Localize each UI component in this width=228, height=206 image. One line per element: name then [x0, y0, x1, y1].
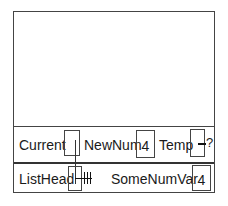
label-listhead: ListHead [19, 171, 74, 187]
box-current [64, 130, 80, 156]
nil-ground-icon-bar3 [90, 172, 91, 184]
undefined-pointer-icon [198, 143, 206, 145]
label-somenumvar: SomeNumVar [111, 171, 198, 187]
row-global-variables: ListHead SomeNumVar 4 [14, 162, 214, 193]
undefined-marker: ? [206, 135, 213, 150]
nil-ground-icon-bar2 [87, 172, 88, 184]
box-newnum: 4 [136, 130, 155, 158]
box-somenumvar: 4 [192, 165, 211, 191]
row-local-variables: Current NewNum 4 Temp ? [14, 126, 214, 162]
heap-area [14, 12, 214, 126]
label-temp: Temp [159, 137, 193, 153]
label-newnum: NewNum [84, 137, 142, 153]
diagram-frame: Current NewNum 4 Temp ? ListHead SomeNum… [13, 11, 215, 193]
label-current: Current [19, 137, 66, 153]
nil-ground-icon [84, 172, 85, 184]
